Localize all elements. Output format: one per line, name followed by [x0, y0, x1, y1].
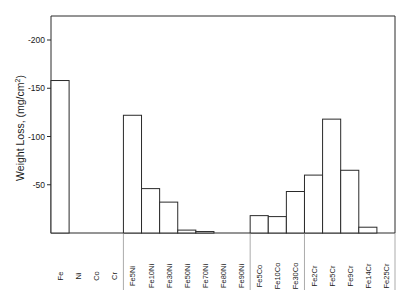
bar-fe2cr [304, 175, 322, 233]
x-category-label: Fe80Ni [219, 264, 228, 289]
bar-chart: -50-100-150-200 FeNiCoCrFe5NiFe10NiFe30N… [0, 0, 407, 292]
x-category-label: Co [92, 271, 101, 281]
x-category-label: Fe2Cr [310, 265, 319, 286]
x-category-label: Fe9Cr [346, 265, 355, 286]
bars [51, 81, 377, 233]
bar-fe10co [268, 217, 286, 233]
y-tick-label: -50 [33, 180, 46, 190]
bar-fe10ni [142, 189, 160, 233]
x-category-label: Fe14Cr [364, 263, 373, 289]
x-category-label: Fe5Cr [328, 265, 337, 286]
y-tick-label: -150 [28, 83, 45, 93]
y-tick-label: -100 [28, 132, 45, 142]
x-category-label: Fe90Ni [237, 264, 246, 289]
bar-fe30ni [160, 202, 178, 233]
x-category-label: Fe5Ni [128, 266, 137, 286]
x-category-label: Fe10Ni [147, 264, 156, 289]
x-category-label: Fe30Ni [165, 264, 174, 289]
bar-fe50ni [178, 230, 196, 233]
y-axis-ticks: -50-100-150-200 [28, 35, 51, 190]
bar-fe5ni [123, 115, 141, 233]
x-category-label: Fe10Co [273, 263, 282, 290]
bar-fe5cr [323, 119, 341, 233]
bar-fe5co [250, 216, 268, 233]
bar-fe14cr [359, 227, 377, 233]
x-axis-category-labels: FeNiCoCrFe5NiFe10NiFe30NiFe50NiFe70NiFe8… [56, 263, 391, 290]
bar-fe [51, 81, 69, 233]
x-category-label: Ni [74, 272, 83, 279]
bar-fe70ni [196, 232, 214, 233]
bar-fe9cr [341, 170, 359, 233]
y-axis-label: Weight Loss, (mg/cm2) [14, 75, 26, 181]
x-category-label: Fe30Co [291, 263, 300, 290]
x-category-label: Fe50Ni [183, 264, 192, 289]
x-category-label: Fe25Cr [382, 263, 391, 289]
x-category-label: Cr [110, 272, 119, 280]
y-tick-label: -200 [28, 35, 45, 45]
x-category-label: Fe70Ni [201, 264, 210, 289]
x-category-label: Fe5Co [255, 265, 264, 288]
x-category-label: Fe [56, 272, 65, 281]
bar-fe30co [286, 192, 304, 233]
